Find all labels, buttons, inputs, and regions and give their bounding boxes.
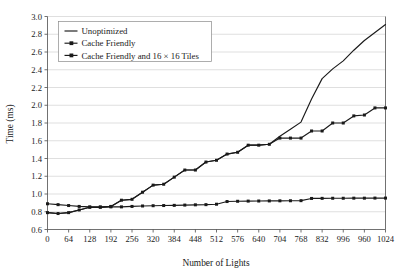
y-tick-label: 3.0 [31,12,42,22]
series-marker [215,159,218,162]
legend-item[interactable]: Cache Friendly and 16 × 16 Tiles [65,51,200,61]
legend-item-label: Cache Friendly and 16 × 16 Tiles [82,51,200,61]
series-marker [120,199,123,202]
series-marker [204,161,207,164]
series-marker [204,203,207,206]
series-marker [183,204,186,207]
series-marker [363,197,366,200]
x-tick-label: 256 [126,234,140,244]
x-tick-label: 1024 [377,234,395,244]
y-tick-label: 2.0 [31,100,42,110]
series-marker [342,197,345,200]
series-marker [141,204,144,207]
series-marker [321,197,324,200]
legend-item-label: Unoptimized [82,26,129,36]
series-marker [384,197,387,200]
series-marker [67,204,70,207]
series-marker [141,191,144,194]
series-marker [278,199,281,202]
series-marker [131,205,134,208]
y-tick-label: 1.6 [31,136,42,146]
series-marker [352,114,355,117]
series-marker [278,137,281,140]
series-marker [183,169,186,172]
series-marker [120,205,123,208]
series-marker [300,137,303,140]
chart-figure: 0.60.81.01.21.41.61.82.02.22.42.62.83.0 … [0,0,411,273]
series-marker [215,203,218,206]
series-marker [194,169,197,172]
series-marker [257,144,260,147]
series-marker [373,106,376,109]
series-marker [268,199,271,202]
series-marker [310,129,313,132]
x-tick-label: 512 [210,234,223,244]
x-tick-label: 576 [231,234,245,244]
series-marker [226,200,229,203]
y-tick-label: 0.6 [31,225,42,235]
series-marker [194,203,197,206]
series-marker [247,144,250,147]
series-marker [78,208,81,211]
series-2 [46,197,387,209]
x-tick-label: 320 [147,234,160,244]
series-marker [384,106,387,109]
x-tick-label: 832 [316,234,329,244]
x-tick-label: 192 [104,234,117,244]
series-marker [226,153,229,156]
series-marker [46,202,49,205]
y-axis-title: Time (ms) [5,105,16,144]
y-axis-ticks: 0.60.81.01.21.41.61.82.02.22.42.62.83.0 [31,12,47,235]
x-tick-label: 996 [337,234,351,244]
series-marker [88,205,91,208]
series-marker [131,198,134,201]
series-marker [310,197,313,200]
series-marker [268,143,271,146]
series-marker [173,204,176,207]
series-marker [247,200,250,203]
series-marker [331,197,334,200]
series-marker [373,197,376,200]
series-marker [331,122,334,125]
series-marker [300,199,303,202]
y-tick-label: 2.2 [31,83,42,93]
x-axis-title: Number of Lights [182,258,250,268]
series-marker [352,197,355,200]
series-marker [152,184,155,187]
series-marker [257,200,260,203]
series-marker [289,137,292,140]
y-tick-label: 1.2 [31,171,42,181]
legend-item-label: Cache Friendly [82,38,137,48]
y-tick-label: 2.6 [31,47,42,57]
y-tick-label: 2.8 [31,29,42,39]
y-tick-label: 1.8 [31,118,42,128]
series-marker [289,199,292,202]
legend-marker-icon [70,54,74,58]
series-marker [363,114,366,117]
x-axis-ticks: 0641281922563203844485125766407047688329… [45,230,394,245]
series-marker [342,122,345,125]
series-marker [57,203,60,206]
series-marker [236,151,239,154]
series-marker [162,204,165,207]
x-tick-label: 128 [83,234,96,244]
y-tick-label: 2.4 [31,65,42,75]
x-tick-label: 768 [295,234,308,244]
chart-legend: UnoptimizedCache FriendlyCache Friendly … [59,22,212,62]
x-tick-label: 448 [189,234,202,244]
x-tick-label: 64 [64,234,73,244]
y-tick-label: 0.8 [31,207,42,217]
series-marker [109,205,112,208]
series-marker [152,204,155,207]
line-chart: 0.60.81.01.21.41.61.82.02.22.42.62.83.0 … [0,0,411,273]
x-tick-label: 384 [168,234,182,244]
series-marker [162,183,165,186]
y-tick-label: 1.4 [31,154,42,164]
series-marker [321,129,324,132]
series-marker [78,205,81,208]
series-marker [99,205,102,208]
legend-marker-icon [70,41,74,45]
series-marker [67,211,70,214]
x-tick-label: 640 [252,234,265,244]
x-tick-label: 704 [273,234,287,244]
